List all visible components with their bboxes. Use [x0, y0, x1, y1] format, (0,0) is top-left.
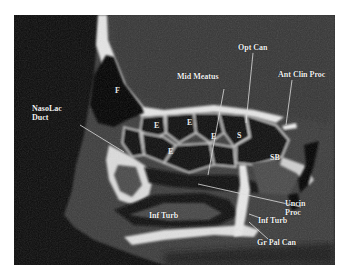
label-nasolac-line1: NasoLac: [32, 104, 62, 113]
label-uncin-line1: Uncin: [285, 199, 305, 208]
ethmoid-cell-label-4: E: [168, 148, 173, 156]
ethmoid-cell-label-3: E: [211, 133, 216, 141]
label-uncin-proc: Uncin Proc: [285, 199, 305, 217]
sphenoid-sinus-label: S: [237, 132, 241, 140]
label-nasolac-line2: Duct: [32, 113, 62, 122]
label-gr-pal-can: Gr Pal Can: [257, 238, 296, 247]
label-inf-turb-right: Inf Turb: [258, 216, 287, 225]
label-mid-meatus: Mid Meatus: [177, 72, 219, 81]
ethmoid-cell-label-2: E: [187, 119, 192, 127]
frontal-sinus-label: F: [115, 87, 120, 95]
label-sb: SB: [270, 153, 280, 162]
noise-overlay: [14, 15, 335, 265]
ct-scan-image: F E E E E S NasoLac Duct Mid Meatus Opt …: [14, 15, 335, 265]
label-ant-clin-proc: Ant Clin Proc: [278, 70, 325, 79]
ct-scan-drawing: [14, 15, 335, 265]
ethmoid-cell-label-1: E: [154, 122, 159, 130]
label-nasolac-duct: NasoLac Duct: [32, 104, 62, 122]
label-uncin-line2: Proc: [285, 208, 305, 217]
label-inf-turb-left: Inf Turb: [149, 211, 178, 220]
label-opt-can: Opt Can: [238, 43, 268, 52]
